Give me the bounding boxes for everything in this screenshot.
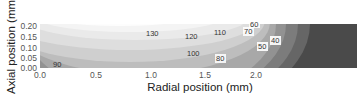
contour-label-90: 90 [53,60,61,69]
y-tick: 0.15 [20,32,37,42]
y-axis-label: Axial position (mm) [5,0,17,94]
x-axis-label: Radial position (mm) [147,81,253,93]
y-axis-ticks: 0.20 0.15 0.10 0.05 0.00 [20,21,37,73]
contour-label-100: 100 [187,49,200,58]
x-tick: 0.5 [90,70,102,80]
x-tick: 1.5 [199,70,211,80]
y-tick: 0.05 [20,53,37,63]
contour-label-40: 40 [271,36,279,45]
contour-chart: 130 120 110 100 90 80 70 60 50 40 0.20 0… [0,0,363,101]
contour-label-130: 130 [146,29,159,38]
x-tick: 0.0 [34,70,46,80]
contour-label-120: 120 [185,32,198,41]
contour-label-110: 110 [214,28,226,37]
x-axis-ticks: 0.0 0.5 1.0 1.5 2.0 [34,70,262,80]
contour-label-50: 50 [258,42,266,51]
y-tick: 0.20 [20,21,37,31]
contour-label-60: 60 [250,20,258,29]
x-tick: 2.0 [250,70,262,80]
band-130 [35,0,205,26]
y-tick: 0.10 [20,43,37,53]
x-tick: 1.0 [145,70,157,80]
contour-label-80: 80 [216,54,224,63]
